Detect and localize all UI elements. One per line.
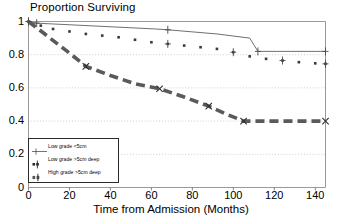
plot-area — [0, 0, 342, 222]
legend-item: Low grade <5cm — [29, 141, 118, 152]
legend-symbol-dotted-line-icon — [32, 155, 47, 164]
x-tick-label: 40 — [97, 189, 123, 201]
x-tick-label: 0 — [16, 189, 42, 201]
legend-item-label: High grade >5cm deep — [48, 168, 101, 177]
x-tick-label: 60 — [138, 189, 164, 201]
survival-chart: Proportion Surviving 00.20.40.60.81 0204… — [0, 0, 342, 222]
data-series — [26, 18, 329, 125]
y-tick-label: 0.2 — [2, 147, 24, 159]
legend: Low grade <5cm Low grade >5cm deep Hig — [28, 138, 119, 183]
y-tick-label: 0.4 — [2, 114, 24, 126]
x-tick-label: 20 — [56, 189, 82, 201]
legend-item-label: Low grade <5cm — [48, 142, 87, 151]
legend-item-label: Low grade >5cm deep — [48, 155, 100, 164]
legend-item: High grade >5cm deep — [29, 167, 118, 178]
x-tick-label: 140 — [302, 189, 328, 201]
y-tick-label: 0.8 — [2, 48, 24, 60]
x-tick-label: 120 — [261, 189, 287, 201]
x-tick-label: 80 — [179, 189, 205, 201]
x-tick-label: 100 — [220, 189, 246, 201]
y-tick-label: 1 — [2, 15, 24, 27]
y-tick-label: 0.6 — [2, 81, 24, 93]
legend-symbol-dashed-line-icon — [32, 168, 47, 177]
legend-symbol-solid-line-icon — [32, 142, 47, 151]
legend-item: Low grade >5cm deep — [29, 154, 118, 165]
x-axis-title: Time from Admission (Months) — [0, 203, 342, 215]
